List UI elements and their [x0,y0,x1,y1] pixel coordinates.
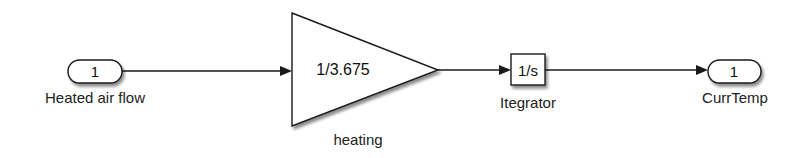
diagram-canvas [0,0,806,158]
integrator-value: 1/s [518,62,538,79]
gain-value: 1/3.675 [316,61,369,79]
signal-line-integrator-to-outport[interactable] [545,65,708,75]
signal-line-inport-to-gain[interactable] [122,66,292,76]
outport-number: 1 [730,63,738,80]
signal-line-gain-to-integrator[interactable] [438,65,511,75]
integrator-label[interactable]: Itegrator [500,94,556,111]
arrowhead-icon [280,66,292,76]
gain-label[interactable]: heating [333,131,382,148]
arrowhead-icon [696,65,708,75]
arrowhead-icon [499,65,511,75]
inport-number: 1 [91,63,99,80]
inport-label[interactable]: Heated air flow [45,89,145,106]
outport-label[interactable]: CurrTemp [702,89,768,106]
